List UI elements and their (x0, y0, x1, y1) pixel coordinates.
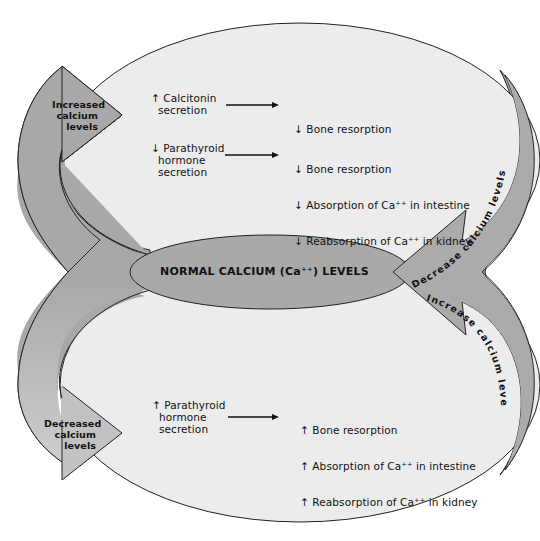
effect-item: ↓ Reabsorption of Ca⁺⁺ in kidney (294, 235, 472, 247)
increased-calcium-label: Increased calcium levels (52, 99, 98, 132)
effect-item: ↓ Bone resorption (294, 163, 472, 175)
effect-item: ↓ Bone resorption (294, 123, 391, 135)
normal-calcium-title: NORMAL CALCIUM (Ca⁺⁺) LEVELS (160, 265, 369, 278)
effect-item: ↓ Absorption of Ca⁺⁺ in intestine (294, 199, 472, 211)
pth-increase-effects: ↑ Bone resorption ↑ Absorption of Ca⁺⁺ i… (300, 400, 478, 520)
pth-decrease-effects: ↓ Bone resorption ↓ Absorption of Ca⁺⁺ i… (294, 139, 472, 259)
calcitonin-cause: ↑ Calcitonin secretion (151, 92, 216, 116)
pth-increase-cause: ↑ Parathyroid hormone secretion (152, 399, 226, 435)
effect-item: ↑ Bone resorption (300, 424, 478, 436)
effect-item: ↑ Absorption of Ca⁺⁺ in intestine (300, 460, 478, 472)
effect-item: ↑ Reabsorption of Ca⁺⁺ in kidney (300, 496, 478, 508)
decreased-calcium-label: Decreased calcium levels (44, 418, 96, 451)
pth-decrease-cause: ↓ Parathyroid hormone secretion (151, 142, 225, 178)
